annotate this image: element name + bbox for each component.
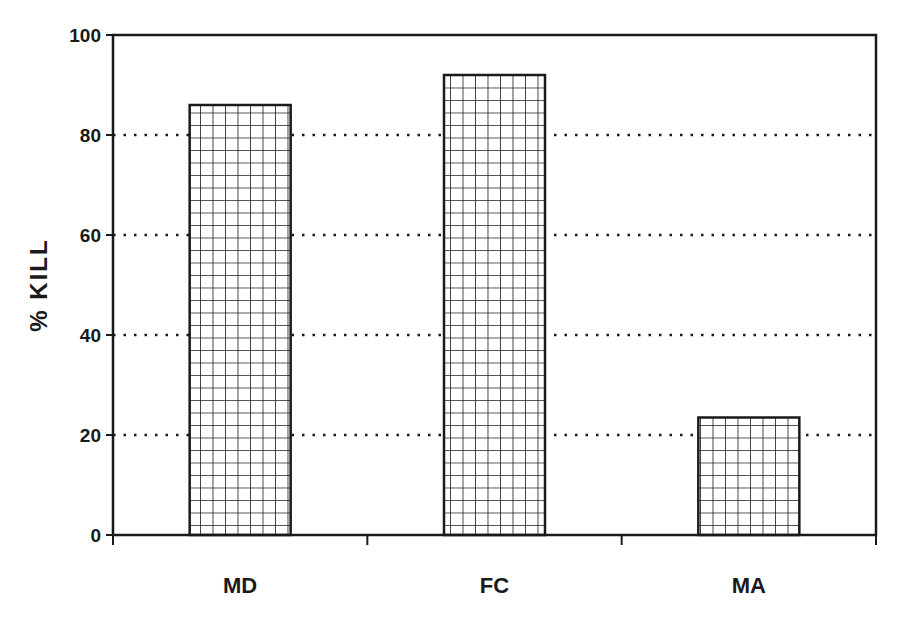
y-tick-label: 100	[69, 25, 101, 46]
y-axis-label: % KILL	[25, 238, 52, 331]
bars	[190, 75, 800, 535]
y-tick-label: 80	[80, 125, 101, 146]
y-axis-ticks: 020406080100	[69, 25, 113, 546]
x-axis-ticks: MDFCMA	[113, 535, 876, 598]
x-category-label: MD	[223, 573, 257, 598]
x-category-label: FC	[480, 573, 509, 598]
y-tick-label: 60	[80, 225, 101, 246]
x-category-label: MA	[732, 573, 766, 598]
y-tick-label: 40	[80, 325, 101, 346]
y-tick-label: 0	[90, 525, 101, 546]
y-tick-label: 20	[80, 425, 101, 446]
bar-ma	[698, 418, 799, 536]
bar-md	[190, 105, 291, 535]
bar-fc	[444, 75, 545, 535]
bar-chart: 020406080100 MDFCMA % KILL	[0, 0, 898, 621]
